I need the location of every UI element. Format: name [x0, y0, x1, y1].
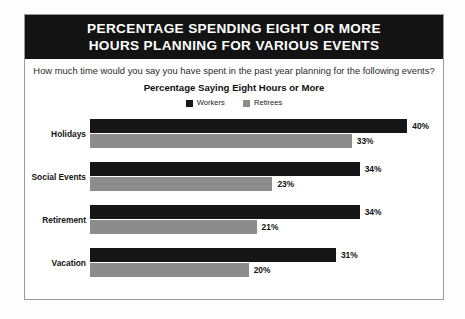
bar-row-retirees: 21% — [90, 220, 439, 234]
bar-row-retirees: 23% — [90, 177, 439, 191]
plot-area: Holidays 40% 33% Social Events — [25, 115, 443, 293]
bar-retirees — [90, 220, 257, 234]
bar-row-workers: 34% — [90, 205, 439, 219]
bar-retirees — [90, 177, 272, 191]
category-label: Holidays — [25, 119, 86, 149]
bar-value-retirees: 20% — [254, 263, 271, 277]
legend-swatch-retirees-icon — [243, 100, 250, 107]
bar-workers — [90, 119, 407, 133]
bar-workers — [90, 162, 360, 176]
chart-frame: PERCENTAGE SPENDING EIGHT OR MORE HOURS … — [24, 14, 444, 300]
legend-label-workers: Workers — [197, 99, 225, 107]
bar-value-retirees: 33% — [357, 134, 374, 148]
bar-retirees — [90, 134, 352, 148]
bar-value-workers: 34% — [365, 162, 382, 176]
bar-row-workers: 31% — [90, 248, 439, 262]
category-label: Retirement — [25, 205, 86, 235]
bar-workers — [90, 205, 360, 219]
category-label: Social Events — [25, 162, 86, 192]
category-label: Vacation — [25, 248, 86, 278]
bar-retirees — [90, 263, 249, 277]
bar-pair: 31% 20% — [90, 248, 439, 278]
bar-value-workers: 34% — [365, 205, 382, 219]
bar-pair: 34% 21% — [90, 205, 439, 235]
bar-pair: 34% 23% — [90, 162, 439, 192]
legend-swatch-workers-icon — [186, 100, 193, 107]
legend-item-retirees: Retirees — [243, 99, 282, 107]
bar-row-workers: 34% — [90, 162, 439, 176]
chart-page: PERCENTAGE SPENDING EIGHT OR MORE HOURS … — [0, 0, 465, 319]
chart-title-line-2: HOURS PLANNING FOR VARIOUS EVENTS — [89, 37, 380, 54]
bar-row-retirees: 20% — [90, 263, 439, 277]
bar-group: Social Events 34% 23% — [25, 162, 443, 192]
chart-legend: Workers Retirees — [25, 99, 443, 107]
title-banner: PERCENTAGE SPENDING EIGHT OR MORE HOURS … — [25, 15, 443, 59]
survey-question: How much time would you say you have spe… — [25, 65, 443, 77]
bar-value-retirees: 21% — [262, 220, 279, 234]
legend-item-workers: Workers — [186, 99, 225, 107]
bar-row-workers: 40% — [90, 119, 439, 133]
bar-pair: 40% 33% — [90, 119, 439, 149]
bar-value-retirees: 23% — [277, 177, 294, 191]
bar-group: Holidays 40% 33% — [25, 119, 443, 149]
bar-group: Retirement 34% 21% — [25, 205, 443, 235]
legend-label-retirees: Retirees — [254, 99, 282, 107]
bar-value-workers: 31% — [341, 248, 358, 262]
chart-subtitle: Percentage Saying Eight Hours or More — [25, 82, 443, 94]
bar-workers — [90, 248, 336, 262]
bar-group: Vacation 31% 20% — [25, 248, 443, 278]
chart-title-line-1: PERCENTAGE SPENDING EIGHT OR MORE — [87, 20, 381, 37]
bar-value-workers: 40% — [412, 119, 429, 133]
bar-row-retirees: 33% — [90, 134, 439, 148]
